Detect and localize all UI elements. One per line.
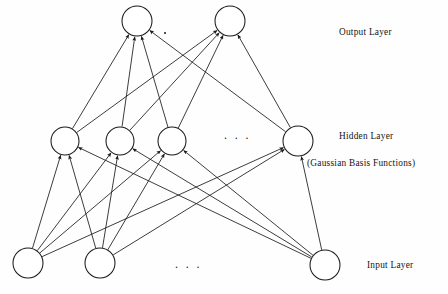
network-node-output-o1[interactable] — [122, 6, 152, 36]
network-edge — [40, 151, 161, 253]
network-edge — [184, 150, 313, 255]
network-node-hidden-h3[interactable] — [158, 127, 186, 155]
network-edge — [103, 156, 118, 248]
network-edge — [79, 147, 311, 258]
network-node-hidden-h4[interactable] — [283, 126, 313, 156]
network-node-hidden-h2[interactable] — [106, 127, 134, 155]
network-node-input-i2[interactable] — [85, 248, 115, 278]
network-edge — [32, 155, 60, 248]
network-edge — [113, 149, 284, 254]
network-diagram-svg — [0, 0, 448, 294]
hidden-layer-label: Hidden Layer — [339, 131, 393, 141]
input-layer-label: Input Layer — [367, 260, 413, 270]
network-edge — [77, 30, 217, 132]
network-edge — [72, 35, 128, 129]
stray-dot-mark — [164, 32, 166, 34]
network-node-output-o2[interactable] — [215, 6, 245, 36]
hidden-layer-sublabel: (Gaussian Basis Functions) — [307, 158, 415, 168]
network-edge — [130, 33, 219, 131]
network-edge — [108, 154, 164, 250]
edges-input-to-hidden — [32, 147, 321, 258]
network-node-input-i3[interactable] — [310, 250, 340, 280]
hidden-layer-ellipsis: . . . — [224, 128, 251, 143]
network-nodes — [13, 6, 340, 280]
network-node-input-i1[interactable] — [13, 248, 43, 278]
network-edge — [69, 155, 96, 248]
network-edge — [301, 157, 321, 250]
input-layer-ellipsis: . . . — [175, 257, 202, 272]
output-layer-label: Output Layer — [339, 27, 392, 37]
figure-canvas: . . . . . . Output Layer Hidden Layer (G… — [0, 0, 448, 294]
network-edge — [238, 35, 290, 128]
network-node-hidden-h1[interactable] — [51, 127, 79, 155]
network-edge — [122, 37, 135, 127]
network-edge — [178, 35, 223, 128]
network-edge — [133, 149, 312, 257]
edges-hidden-to-output — [72, 30, 290, 132]
